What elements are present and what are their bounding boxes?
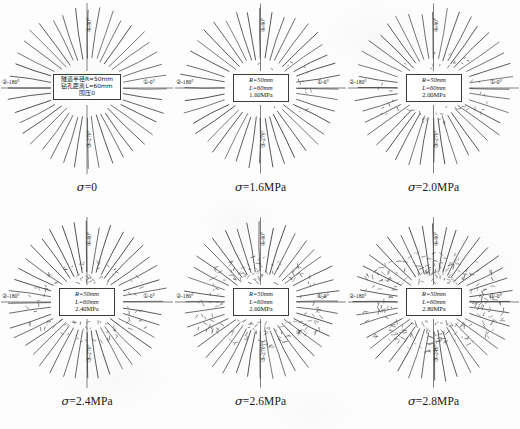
panel-caption: σ=2.6MPa: [174, 394, 347, 408]
fracture-mark: [374, 334, 376, 335]
fracture-mark: [320, 315, 323, 318]
fracture-mark: [100, 277, 101, 278]
fracture-mark: [44, 327, 45, 330]
fracture-mark: [396, 320, 397, 325]
info-line-3: 2.80MPa: [409, 305, 459, 313]
fracture-mark: [404, 277, 407, 280]
borehole-ray: [105, 113, 132, 150]
fracture-mark: [216, 288, 219, 289]
fracture-mark: [448, 277, 452, 278]
fracture-mark: [234, 343, 235, 344]
fracture-mark: [302, 273, 304, 274]
fracture-mark: [490, 324, 492, 325]
fracture-mark: [403, 332, 406, 333]
fracture-mark: [116, 337, 117, 338]
borehole-ray: [16, 64, 51, 76]
fracture-mark: [501, 318, 503, 319]
borehole-ray: [456, 324, 488, 355]
fracture-mark: [77, 338, 79, 339]
fracture-mark: [458, 263, 459, 264]
panel-plot-area: R=50mmL=60mm2.00MPa①-0°②-180°④-90°③-270°: [347, 0, 520, 180]
angle-label-0deg: ①-0°: [490, 79, 502, 85]
borehole-ray: [396, 113, 420, 159]
caption-sigma-symbol: σ: [408, 180, 416, 194]
borehole-ray: [18, 53, 54, 71]
fracture-mark: [210, 320, 213, 322]
fracture-mark: [304, 330, 305, 331]
angle-label-270deg: ③-270°: [260, 342, 266, 364]
fracture-mark: [249, 283, 252, 284]
panel-info-box: 隧道半径R=50mm钻孔距离L=60mm围压0: [53, 74, 121, 100]
fracture-mark: [115, 334, 117, 336]
fracture-mark: [372, 275, 373, 279]
borehole-ray: [185, 94, 224, 101]
borehole-ray: [470, 93, 510, 99]
fracture-mark: [231, 261, 233, 262]
fracture-mark: [202, 302, 204, 306]
borehole-ray: [10, 314, 50, 328]
fracture-mark: [490, 307, 491, 310]
borehole-ray: [293, 266, 331, 285]
fracture-mark: [437, 321, 439, 323]
fracture-mark: [486, 331, 487, 333]
borehole-ray: [185, 307, 224, 313]
fracture-mark: [464, 275, 465, 280]
fracture-mark: [220, 324, 223, 326]
fracture-mark: [128, 328, 132, 329]
fracture-mark: [265, 321, 267, 325]
panel-plot-area: R=50mmL=60mm2.80MPa①-0°②-180°④-90°③-270°: [347, 214, 520, 394]
fracture-mark: [447, 65, 449, 68]
borehole-ray: [91, 331, 98, 378]
fracture-mark: [382, 83, 383, 85]
panel-1: 隧道半径R=50mm钻孔距离L=60mm围压0①-0°②-180°④-90°③-…: [0, 0, 174, 214]
fracture-mark: [453, 264, 454, 269]
info-line-1: R=50mm: [62, 290, 112, 298]
angle-label-0deg: ①-0°: [490, 293, 502, 299]
fracture-mark: [421, 281, 424, 282]
borehole-ray: [188, 314, 225, 327]
fracture-mark: [437, 337, 441, 338]
fracture-mark: [501, 312, 504, 316]
fracture-mark: [439, 119, 441, 120]
fracture-mark: [284, 341, 287, 342]
panel-plot-area: R=50mmL=60mm2.60MPa①-0°②-180°④-90°③-270°: [174, 214, 347, 394]
fracture-mark: [51, 274, 52, 275]
fracture-mark: [247, 275, 250, 278]
fracture-mark: [131, 281, 132, 282]
fracture-mark: [386, 114, 387, 115]
borehole-ray: [297, 99, 334, 111]
angle-label-270deg: ③-270°: [433, 342, 439, 364]
borehole-ray: [294, 105, 330, 123]
fracture-mark: [493, 329, 494, 331]
fracture-mark: [113, 326, 114, 328]
caption-sigma-symbol: σ: [235, 394, 243, 408]
borehole-ray: [355, 94, 397, 101]
fracture-mark: [401, 283, 404, 285]
angle-label-180deg: ②-180°: [2, 293, 20, 299]
fracture-mark: [139, 320, 141, 321]
fracture-mark: [271, 347, 274, 348]
panel-plot-area: R=50mmL=60mm2.40MPa①-0°②-180°④-90°③-270°: [0, 214, 174, 394]
fracture-mark: [89, 275, 90, 277]
info-line-3: 1.60MPa: [236, 91, 286, 99]
info-line-2: 钻孔距离L=60mm: [56, 83, 118, 90]
borehole-ray: [409, 116, 425, 165]
fracture-mark: [454, 261, 456, 264]
borehole-ray: [265, 13, 272, 58]
fracture-mark: [81, 341, 83, 342]
panel-caption: σ=2.4MPa: [0, 394, 174, 408]
fracture-mark: [264, 331, 267, 332]
fracture-mark: [489, 317, 490, 318]
caption-sigma-value: =2.0MPa: [416, 181, 459, 193]
borehole-ray: [470, 100, 509, 113]
fracture-mark: [68, 333, 69, 335]
fracture-mark: [389, 327, 390, 328]
borehole-ray: [282, 324, 314, 356]
fracture-mark: [445, 331, 449, 334]
fracture-mark: [388, 103, 389, 106]
fracture-mark: [481, 297, 482, 302]
fracture-mark: [278, 337, 281, 338]
borehole-ray: [15, 100, 50, 112]
borehole-ray: [124, 88, 167, 89]
info-line-1: R=50mm: [409, 290, 459, 298]
